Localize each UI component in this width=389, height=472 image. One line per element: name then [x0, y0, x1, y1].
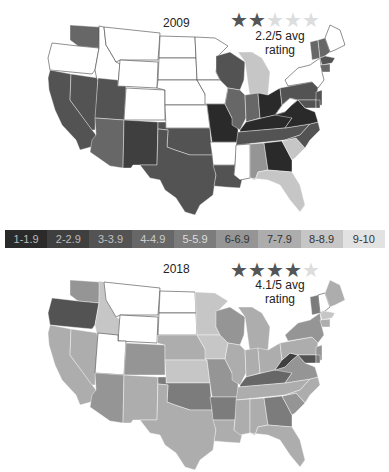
- legend-bin: 9-10: [343, 230, 385, 248]
- state-sd: [158, 58, 197, 80]
- state-ar: [210, 142, 238, 165]
- state-wa: [70, 280, 100, 303]
- color-legend: 1-1.92-2.93-3.94-4.95-5.96-6.97-7.98-8.9…: [5, 230, 385, 248]
- state-wy: [118, 315, 158, 343]
- year-label-2018: 2018: [163, 262, 190, 276]
- star-filled-icon: ★: [266, 261, 284, 279]
- legend-bin: 5-5.9: [174, 230, 216, 248]
- state-wa: [70, 25, 100, 48]
- state-nm: [123, 375, 158, 423]
- state-ma: [320, 311, 335, 320]
- state-sd: [158, 313, 197, 335]
- state-ks: [165, 105, 210, 128]
- state-or: [48, 43, 99, 74]
- state-in: [245, 348, 260, 377]
- avg-rating-2018: 4.1/5 avg rating: [240, 278, 320, 306]
- avg-rating-2009: 2.2/5 avg rating: [240, 29, 320, 57]
- star-filled-icon: ★: [230, 261, 248, 279]
- legend-bin: 4-4.9: [132, 230, 174, 248]
- star-rating-2018: ★★★★★: [230, 261, 320, 279]
- legend-bin: 2-2.9: [47, 230, 89, 248]
- state-or: [48, 298, 99, 329]
- legend-bin: 6-6.9: [216, 230, 258, 248]
- map-panel-2009: 2009 ★★★★★ 2.2/5 avg rating: [0, 0, 389, 225]
- state-wy: [118, 60, 158, 88]
- state-fl: [250, 170, 305, 212]
- state-nm: [123, 120, 158, 168]
- legend-bin: 7-7.9: [258, 230, 300, 248]
- star-filled-icon: ★: [248, 11, 266, 29]
- legend-bin: 8-8.9: [301, 230, 343, 248]
- state-nd: [159, 291, 196, 313]
- star-filled-icon: ★: [248, 261, 266, 279]
- star-filled-icon: ★: [230, 11, 248, 29]
- star-empty-icon: ★: [284, 11, 302, 29]
- us-map-2009: [0, 0, 389, 225]
- star-filled-icon: ★: [284, 261, 302, 279]
- state-ny: [285, 58, 324, 88]
- state-co: [124, 88, 165, 120]
- state-in: [245, 93, 260, 122]
- star-rating-2009: ★★★★★: [230, 11, 320, 29]
- legend-bin: 3-3.9: [89, 230, 131, 248]
- state-de: [316, 355, 320, 363]
- star-empty-icon: ★: [302, 11, 320, 29]
- state-ar: [210, 397, 238, 420]
- state-fl: [250, 425, 305, 467]
- state-ct: [320, 64, 330, 72]
- state-ct: [320, 319, 330, 327]
- us-map-2018: [0, 250, 389, 472]
- state-ks: [165, 360, 210, 383]
- state-co: [124, 343, 165, 375]
- state-de: [316, 100, 320, 108]
- year-label-2009: 2009: [163, 16, 190, 30]
- legend-bin: 1-1.9: [5, 230, 47, 248]
- state-nd: [159, 36, 196, 58]
- map-panel-2018: 2018 ★★★★★ 4.1/5 avg rating: [0, 250, 389, 472]
- state-ms: [234, 399, 250, 435]
- star-empty-icon: ★: [266, 11, 284, 29]
- state-ma: [320, 56, 335, 65]
- star-empty-icon: ★: [302, 261, 320, 279]
- state-ms: [234, 144, 250, 180]
